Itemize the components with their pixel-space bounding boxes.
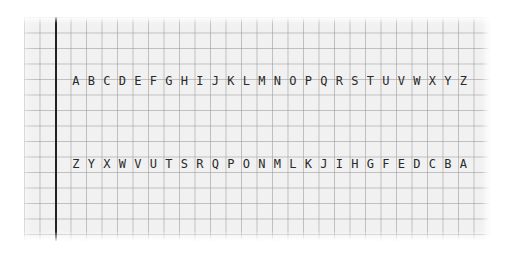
letter: O [239, 157, 255, 171]
letter: N [270, 74, 286, 88]
letter: Z [456, 74, 472, 88]
letter: E [130, 74, 146, 88]
letter: Y [84, 157, 100, 171]
letter: Y [440, 74, 456, 88]
letter: I [192, 74, 208, 88]
alphabet-forward: ABCDEFGHIJKLMNOPQRSTUVWXYZ [68, 74, 471, 88]
letter: J [208, 74, 224, 88]
alphabet-reverse: ZYXWVUTSRQPONMLKJIHGFEDCBA [68, 157, 471, 171]
letter: X [425, 74, 441, 88]
letter: L [239, 74, 255, 88]
letter: G [363, 157, 379, 171]
letter: B [84, 74, 100, 88]
margin-line [55, 17, 57, 241]
edge-fade [24, 17, 490, 23]
letter: K [223, 74, 239, 88]
edge-fade [24, 231, 490, 241]
letter: U [378, 74, 394, 88]
letter: C [99, 74, 115, 88]
letter: F [146, 74, 162, 88]
letter: H [347, 157, 363, 171]
letter: P [223, 157, 239, 171]
letter: W [115, 157, 131, 171]
letter: S [177, 157, 193, 171]
letter: W [409, 74, 425, 88]
letter: A [456, 157, 472, 171]
letter: Z [68, 157, 84, 171]
letter: T [161, 157, 177, 171]
graph-paper: ABCDEFGHIJKLMNOPQRSTUVWXYZ ZYXWVUTSRQPON… [24, 17, 490, 241]
letter: U [146, 157, 162, 171]
letter: D [409, 157, 425, 171]
letter: P [301, 74, 317, 88]
letter: Q [316, 74, 332, 88]
letter: X [99, 157, 115, 171]
letter: G [161, 74, 177, 88]
letter: T [363, 74, 379, 88]
letter: E [394, 157, 410, 171]
letter: O [285, 74, 301, 88]
letter: R [192, 157, 208, 171]
edge-fade [482, 17, 490, 241]
letter: J [316, 157, 332, 171]
letter: V [394, 74, 410, 88]
letter: R [332, 74, 348, 88]
letter: L [285, 157, 301, 171]
letter: Q [208, 157, 224, 171]
letter: S [347, 74, 363, 88]
letter: M [254, 74, 270, 88]
letter: H [177, 74, 193, 88]
letter: N [254, 157, 270, 171]
letter: B [440, 157, 456, 171]
letter: A [68, 74, 84, 88]
letter: C [425, 157, 441, 171]
letter: F [378, 157, 394, 171]
letter: M [270, 157, 286, 171]
letter: I [332, 157, 348, 171]
letter: K [301, 157, 317, 171]
letter: V [130, 157, 146, 171]
letter: D [115, 74, 131, 88]
